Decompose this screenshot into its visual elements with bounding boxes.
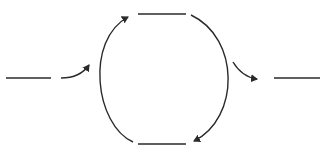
right-arc-arrow-icon bbox=[191, 15, 228, 141]
cycle-diagram bbox=[0, 0, 326, 155]
left-arc-arrow-icon bbox=[100, 17, 133, 142]
input-arrow-icon bbox=[61, 65, 89, 78]
output-arrow-icon bbox=[233, 62, 257, 79]
